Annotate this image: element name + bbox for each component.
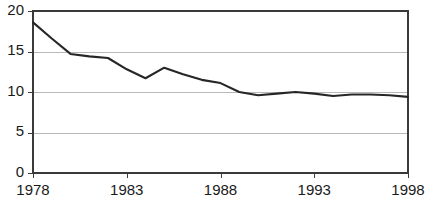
x-axis-label-1993: 1993 <box>298 181 331 198</box>
gridlines-group <box>33 53 408 134</box>
x-axis-label-1983: 1983 <box>110 181 143 198</box>
chart-canvas: 05101520 19781983198819931998 <box>0 0 429 214</box>
x-tick-labels-group: 19781983198819931998 <box>16 181 424 198</box>
y-axis-label-15: 15 <box>7 41 24 58</box>
y-axis-label-5: 5 <box>16 122 24 139</box>
data-series-group <box>33 22 408 97</box>
y-axis-label-20: 20 <box>7 1 24 18</box>
x-axis-label-1978: 1978 <box>16 181 49 198</box>
line-chart: 05101520 19781983198819931998 <box>0 0 429 214</box>
x-axis-label-1988: 1988 <box>204 181 237 198</box>
y-axis-label-10: 10 <box>7 82 24 99</box>
x-axis-label-1998: 1998 <box>391 181 424 198</box>
y-tick-labels-group: 05101520 <box>7 1 24 180</box>
y-axis-label-0: 0 <box>16 163 24 180</box>
series-line-rate <box>33 22 408 97</box>
